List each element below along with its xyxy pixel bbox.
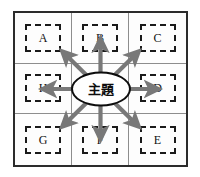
branch-box-a[interactable]: A (25, 24, 61, 52)
branch-box-b[interactable]: B (82, 24, 118, 52)
branch-label-b: B (96, 32, 104, 44)
branch-label-f: F (97, 134, 104, 146)
branch-label-h: H (39, 82, 48, 94)
branch-box-e[interactable]: E (140, 126, 176, 154)
matrix-grid: A B C H D (13, 11, 188, 167)
grid-cell-bottom-left[interactable]: G (15, 114, 72, 165)
grid-cell-middle-left[interactable]: H (15, 64, 72, 115)
branch-box-d[interactable]: D (140, 74, 176, 102)
branch-label-e: E (154, 134, 161, 146)
branch-box-h[interactable]: H (25, 74, 61, 102)
branch-box-g[interactable]: G (25, 126, 61, 154)
grid-cell-middle-center[interactable] (72, 64, 129, 115)
branch-label-a: A (39, 32, 48, 44)
grid-cell-top-left[interactable]: A (15, 13, 72, 64)
grid-cell-top-right[interactable]: C (129, 13, 186, 64)
grid-cell-middle-right[interactable]: D (129, 64, 186, 115)
branch-label-d: D (153, 82, 162, 94)
branch-label-g: G (39, 134, 48, 146)
radial-matrix-diagram: A B C H D (0, 0, 200, 177)
grid-cell-bottom-center[interactable]: F (72, 114, 129, 165)
grid-cell-bottom-right[interactable]: E (129, 114, 186, 165)
grid-cell-top-center[interactable]: B (72, 13, 129, 64)
branch-box-f[interactable]: F (82, 126, 118, 154)
branch-box-c[interactable]: C (140, 24, 176, 52)
branch-label-c: C (153, 32, 161, 44)
